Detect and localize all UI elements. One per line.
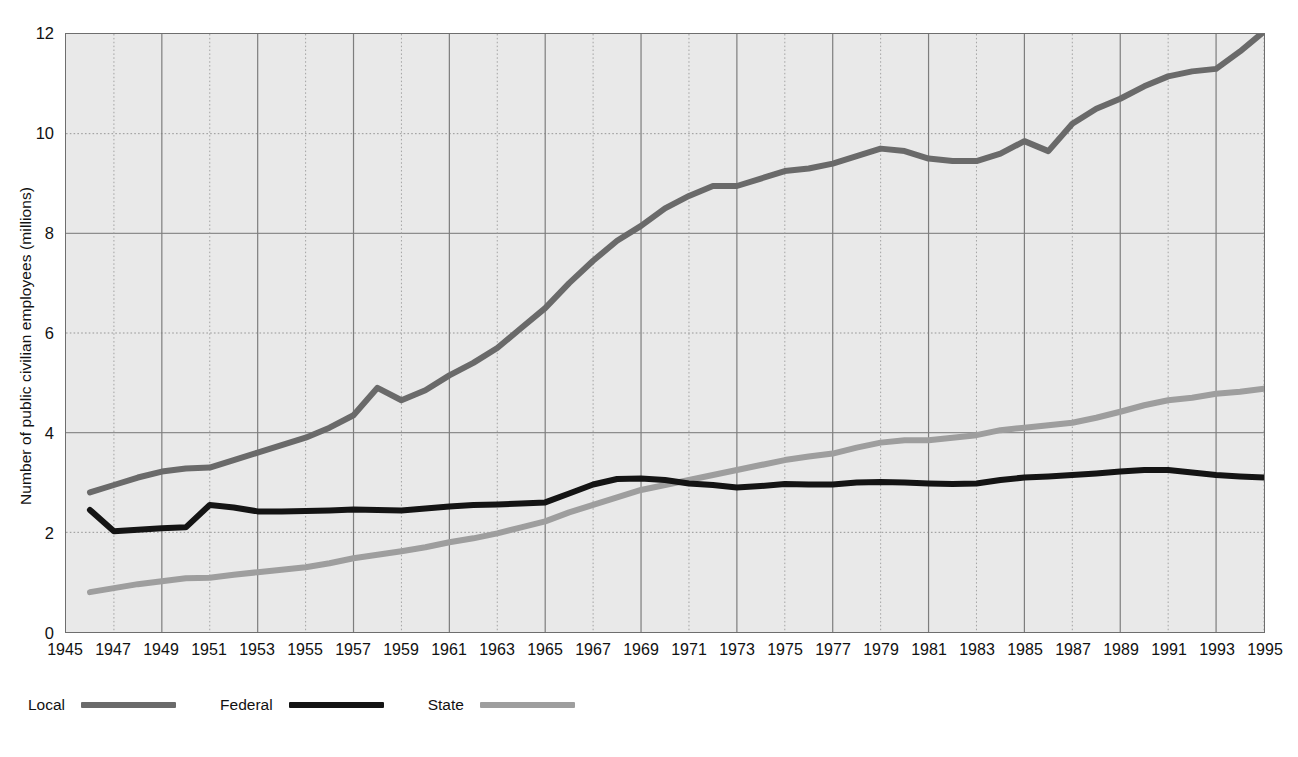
chart-figure: Number of public civilian employees (mil… <box>0 0 1298 757</box>
x-axis-tick-label: 1991 <box>1151 641 1187 659</box>
x-axis-tick-label: 1953 <box>239 641 275 659</box>
x-axis-tick-label: 1975 <box>767 641 803 659</box>
x-axis-tick-label: 1973 <box>719 641 755 659</box>
y-axis-tick-label: 12 <box>14 24 54 43</box>
x-axis-tick-label: 1969 <box>623 641 659 659</box>
legend-label: Federal <box>220 696 273 714</box>
y-axis-tick-label: 2 <box>14 524 54 543</box>
y-axis-tick-label: 0 <box>14 624 54 643</box>
x-axis-tick-label: 1949 <box>143 641 179 659</box>
gridlines <box>66 34 1264 632</box>
series-line-federal <box>90 470 1264 531</box>
x-axis-tick-label: 1995 <box>1247 641 1283 659</box>
x-axis-tick-label: 1959 <box>383 641 419 659</box>
legend-item-state[interactable]: State <box>428 693 619 717</box>
x-axis-tick-label: 1989 <box>1103 641 1139 659</box>
legend-swatch-state <box>480 702 575 708</box>
x-axis-tick-label: 1987 <box>1055 641 1091 659</box>
x-axis-tick-label: 1983 <box>959 641 995 659</box>
x-axis-tick-label: 1979 <box>863 641 899 659</box>
x-axis-tick-label: 1957 <box>335 641 371 659</box>
x-axis-tick-label: 1971 <box>671 641 707 659</box>
legend-label: State <box>428 696 464 714</box>
series-line-local <box>90 34 1264 492</box>
x-axis-tick-label: 1947 <box>95 641 131 659</box>
legend-item-local[interactable]: Local <box>28 693 220 717</box>
x-axis-tick-label: 1963 <box>479 641 515 659</box>
x-axis-tick-label: 1981 <box>911 641 947 659</box>
y-axis-tick-label: 10 <box>14 124 54 143</box>
series-line-state <box>90 389 1264 592</box>
y-axis-tick-label: 8 <box>14 224 54 243</box>
x-axis-tick-label: 1955 <box>287 641 323 659</box>
legend-label: Local <box>28 696 65 714</box>
x-axis-tick-label: 1961 <box>431 641 467 659</box>
x-axis-tick-label: 1993 <box>1199 641 1235 659</box>
x-axis-tick-label: 1951 <box>191 641 227 659</box>
legend-swatch-federal <box>289 702 384 708</box>
x-axis-tick-label: 1977 <box>815 641 851 659</box>
y-axis-tick-label: 4 <box>14 424 54 443</box>
plot-svg <box>66 34 1264 632</box>
chart-legend: LocalFederalState <box>28 693 619 717</box>
plot-area <box>65 33 1265 633</box>
data-series-group <box>90 34 1264 592</box>
x-axis-tick-label: 1967 <box>575 641 611 659</box>
y-axis-tick-label: 6 <box>14 324 54 343</box>
legend-swatch-local <box>81 702 176 708</box>
legend-item-federal[interactable]: Federal <box>220 693 428 717</box>
x-axis-tick-label: 1945 <box>47 641 83 659</box>
x-axis-tick-label: 1965 <box>527 641 563 659</box>
x-axis-tick-label: 1985 <box>1007 641 1043 659</box>
